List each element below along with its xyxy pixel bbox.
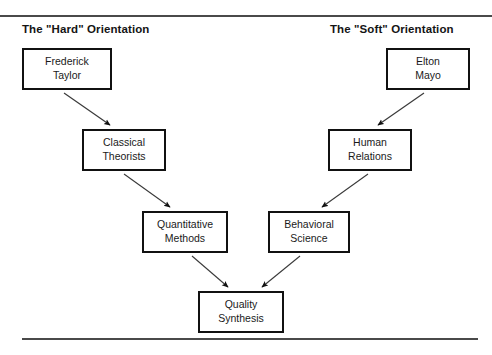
edge-taylor-to-classical bbox=[64, 93, 110, 125]
node-elton-mayo[interactable]: Elton Mayo bbox=[386, 48, 470, 90]
column-heading-soft: The "Soft" Orientation bbox=[330, 23, 454, 35]
top-divider-rule bbox=[0, 15, 492, 17]
node-frederick-taylor[interactable]: Frederick Taylor bbox=[22, 48, 112, 90]
bottom-divider-rule bbox=[22, 338, 478, 340]
node-human-relations[interactable]: Human Relations bbox=[328, 129, 412, 171]
node-label: Frederick Taylor bbox=[45, 55, 89, 83]
diagram-canvas: The "Hard" Orientation The "Soft" Orient… bbox=[0, 0, 492, 355]
node-quantitative-methods[interactable]: Quantitative Methods bbox=[142, 211, 228, 253]
node-label: Classical Theorists bbox=[102, 136, 145, 164]
node-classical-theorists[interactable]: Classical Theorists bbox=[82, 129, 166, 171]
edge-human-to-behavioral bbox=[322, 174, 368, 207]
edge-quant-to-quality bbox=[192, 256, 228, 287]
node-label: Quantitative Methods bbox=[157, 218, 213, 246]
edge-classical-to-quant bbox=[124, 174, 170, 207]
node-behavioral-science[interactable]: Behavioral Science bbox=[268, 211, 350, 253]
edge-behavioral-to-quality bbox=[262, 256, 300, 287]
edge-mayo-to-human bbox=[378, 93, 424, 125]
node-label: Elton Mayo bbox=[415, 55, 441, 83]
column-heading-hard: The "Hard" Orientation bbox=[22, 23, 149, 35]
node-label: Behavioral Science bbox=[284, 218, 334, 246]
node-label: Human Relations bbox=[348, 136, 392, 164]
node-label: Quality Synthesis bbox=[218, 298, 264, 326]
node-quality-synthesis[interactable]: Quality Synthesis bbox=[198, 291, 284, 333]
